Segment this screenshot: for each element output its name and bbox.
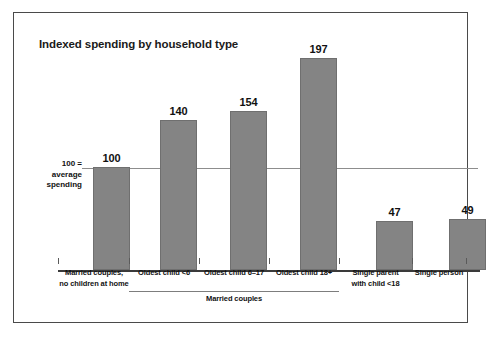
- bar-value-3: 197: [291, 43, 346, 55]
- category-label-2-line1: Oldest child 6–17: [199, 267, 269, 278]
- bar-2[interactable]: [230, 111, 267, 270]
- bar-value-0: 100: [84, 152, 139, 164]
- bar-value-4: 47: [367, 206, 422, 218]
- x-axis-tick-3: [269, 258, 270, 264]
- group-bracket-line: [129, 291, 339, 292]
- category-label-0-line2: no children at home: [58, 278, 130, 289]
- category-label-0: Married couples, no children at home: [58, 267, 130, 289]
- x-axis-tick-0: [58, 258, 59, 264]
- bar-0[interactable]: [93, 167, 130, 270]
- category-label-3: Oldest child 18+: [269, 267, 339, 278]
- category-label-0-line1: Married couples,: [58, 267, 130, 278]
- x-axis-tick-2: [199, 258, 200, 264]
- x-axis-tick-6: [466, 258, 467, 264]
- chart-title: Indexed spending by household type: [39, 38, 238, 50]
- reference-line-label-line3: spending: [26, 180, 82, 191]
- category-label-4-line1: Single parent: [339, 267, 412, 278]
- x-axis-tick-4: [339, 258, 340, 264]
- category-label-5: Single person: [412, 267, 466, 278]
- category-label-4: Single parent with child <18: [339, 267, 412, 289]
- reference-line-label-line1: 100 =: [26, 159, 82, 170]
- category-label-2: Oldest child 6–17: [199, 267, 269, 278]
- x-axis-tick-1: [129, 258, 130, 264]
- reference-line-label: 100 = average spending: [26, 159, 82, 191]
- category-label-1-line1: Oldest child <6: [129, 267, 199, 278]
- category-label-1: Oldest child <6: [129, 267, 199, 278]
- plot-area: 100 140 154 197 47 49: [84, 53, 480, 271]
- bar-value-2: 154: [221, 96, 276, 108]
- category-label-4-line2: with child <18: [339, 278, 412, 289]
- x-axis-tick-5: [412, 258, 413, 264]
- bar-value-1: 140: [151, 105, 206, 117]
- chart-frame: Indexed spending by household type 100 =…: [13, 12, 468, 323]
- bar-value-5: 49: [440, 204, 488, 216]
- bar-5[interactable]: [449, 219, 486, 270]
- category-label-3-line1: Oldest child 18+: [269, 267, 339, 278]
- chart-figure: Indexed spending by household type 100 =…: [0, 0, 488, 340]
- category-label-5-line1: Single person: [412, 267, 466, 278]
- bar-1[interactable]: [160, 120, 197, 270]
- reference-line-label-line2: average: [26, 170, 82, 181]
- bar-3[interactable]: [300, 58, 337, 270]
- group-bracket-label: Married couples: [129, 294, 339, 303]
- reference-line-100: [82, 168, 478, 169]
- bar-4[interactable]: [376, 221, 413, 270]
